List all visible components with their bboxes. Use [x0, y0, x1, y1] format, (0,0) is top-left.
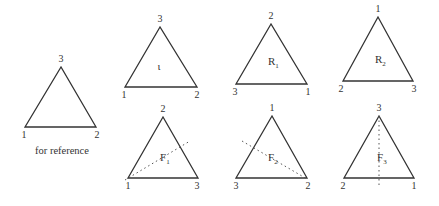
vertex-label-top: 2 — [161, 103, 166, 114]
vertex-label-right: 3 — [412, 83, 417, 94]
reference-caption: for reference — [35, 145, 89, 156]
vertex-label-left: 1 — [122, 89, 127, 100]
triangle-outline — [236, 116, 307, 178]
symmetry-label: F1 — [160, 151, 170, 166]
vertex-label-left: 2 — [339, 83, 344, 94]
vertex-label-right: 2 — [195, 89, 200, 100]
vertex-label-top: 3 — [59, 53, 64, 64]
vertex-label-left: 3 — [233, 86, 238, 97]
triangle-outline — [128, 117, 198, 178]
vertex-label-left: 1 — [126, 180, 131, 191]
vertex-label-top: 1 — [376, 3, 381, 14]
triangle-outline — [125, 27, 197, 87]
triangle-outline — [25, 67, 96, 127]
symmetry-label: F3 — [377, 151, 387, 166]
reference-triangle: 3 1 2 for reference — [22, 53, 100, 156]
reflection-f1: 2 1 3 F1 — [125, 103, 200, 191]
reflection-f2: 1 3 2 F2 — [234, 102, 311, 191]
vertex-label-right: 2 — [95, 129, 100, 140]
vertex-label-right: 1 — [306, 86, 311, 97]
reflection-axis — [125, 141, 190, 180]
vertex-label-right: 3 — [195, 180, 200, 191]
vertex-label-left: 2 — [341, 180, 346, 191]
triangle-outline — [236, 24, 307, 84]
vertex-label-right: 2 — [306, 180, 311, 191]
symmetry-label: R2 — [375, 53, 386, 68]
rotation-r1: 2 3 1 R1 — [233, 10, 311, 97]
symmetry-label: R1 — [268, 55, 279, 70]
symmetry-diagram: 3 1 2 for reference 3 1 2 ι 2 3 1 R1 1 2… — [0, 0, 439, 206]
symmetry-label: ι — [158, 60, 161, 72]
vertex-label-top: 1 — [270, 102, 275, 113]
vertex-label-left: 1 — [22, 129, 27, 140]
vertex-label-left: 3 — [234, 180, 239, 191]
vertex-label-top: 3 — [158, 13, 163, 24]
triangle-outline — [343, 17, 413, 81]
reflection-f3: 3 2 1 F3 — [341, 102, 417, 191]
symmetry-label: F2 — [268, 151, 278, 166]
vertex-label-top: 2 — [269, 10, 274, 21]
vertex-label-top: 3 — [377, 102, 382, 113]
rotation-identity: 3 1 2 ι — [122, 13, 200, 100]
vertex-label-right: 1 — [412, 180, 417, 191]
rotation-r2: 1 2 3 R2 — [339, 3, 417, 94]
